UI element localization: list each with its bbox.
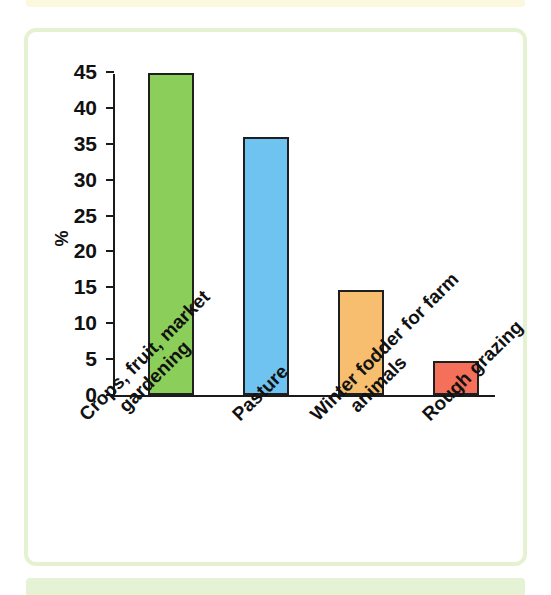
y-tick-label: 10 xyxy=(57,312,97,333)
y-tick-mark xyxy=(106,179,114,181)
y-tick-label: 25 xyxy=(57,205,97,226)
y-tick-label: 5 xyxy=(57,348,97,369)
y-tick-label: 45 xyxy=(57,61,97,82)
y-tick-label: 40 xyxy=(57,97,97,118)
page-bottom-strip xyxy=(26,578,525,595)
y-tick-mark xyxy=(106,107,114,109)
y-tick-mark xyxy=(106,143,114,145)
bar[interactable] xyxy=(243,137,289,395)
y-tick-mark xyxy=(106,286,114,288)
y-tick-mark xyxy=(106,322,114,324)
y-tick-mark xyxy=(106,250,114,252)
y-tick-mark xyxy=(106,358,114,360)
y-tick-label: 35 xyxy=(57,133,97,154)
y-tick-label: 15 xyxy=(57,276,97,297)
y-tick-mark xyxy=(106,215,114,217)
y-axis-title: % xyxy=(52,230,73,246)
figure-card: 051015202530354045 % Crops, fruit, marke… xyxy=(24,28,527,566)
chart-page: 051015202530354045 % Crops, fruit, marke… xyxy=(0,0,551,595)
page-top-strip xyxy=(26,0,525,7)
y-tick-label: 30 xyxy=(57,169,97,190)
y-tick-mark xyxy=(106,71,114,73)
plot-area: 051015202530354045 % Crops, fruit, marke… xyxy=(28,32,531,570)
